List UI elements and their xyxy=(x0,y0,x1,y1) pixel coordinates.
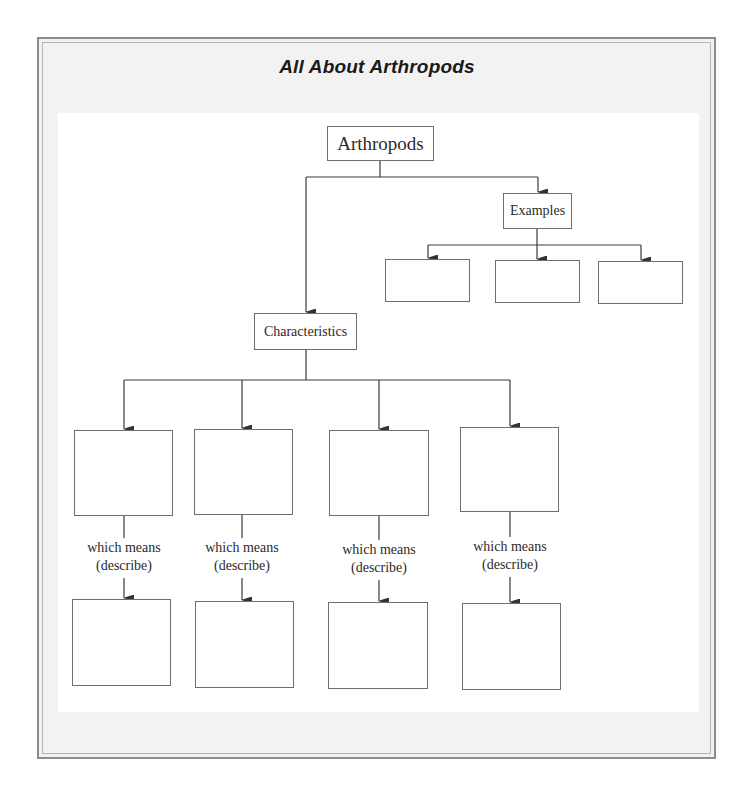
node-arthropods: Arthropods xyxy=(327,126,434,161)
node-characteristics-label: Characteristics xyxy=(264,324,347,340)
example-box-2[interactable] xyxy=(495,260,580,303)
example-box-1[interactable] xyxy=(385,259,470,302)
characteristic-box-2[interactable] xyxy=(194,429,293,515)
connector-label-3-line1: which means xyxy=(319,541,439,559)
connector-label-3-line2: (describe) xyxy=(319,559,439,577)
connector-label-2-line1: which means xyxy=(182,539,302,557)
node-arthropods-label: Arthropods xyxy=(337,133,424,155)
characteristic-box-4[interactable] xyxy=(460,427,559,512)
node-examples: Examples xyxy=(503,193,572,229)
description-box-4[interactable] xyxy=(462,603,561,690)
description-box-2[interactable] xyxy=(195,601,294,688)
connector-label-1-line2: (describe) xyxy=(64,557,184,575)
connector-label-2: which means (describe) xyxy=(182,539,302,575)
connector-label-4: which means (describe) xyxy=(450,538,570,574)
connector-label-3: which means (describe) xyxy=(319,541,439,577)
connector-label-1: which means (describe) xyxy=(64,539,184,575)
node-examples-label: Examples xyxy=(510,203,565,219)
example-box-3[interactable] xyxy=(598,261,683,304)
connector-label-1-line1: which means xyxy=(64,539,184,557)
connector-label-4-line1: which means xyxy=(450,538,570,556)
connector-label-2-line2: (describe) xyxy=(182,557,302,575)
connector-label-4-line2: (describe) xyxy=(450,556,570,574)
description-box-1[interactable] xyxy=(72,599,171,686)
page-title: All About Arthropods xyxy=(0,56,754,78)
characteristic-box-1[interactable] xyxy=(74,430,173,516)
characteristic-box-3[interactable] xyxy=(329,430,429,516)
node-characteristics: Characteristics xyxy=(254,313,357,350)
description-box-3[interactable] xyxy=(328,602,428,689)
